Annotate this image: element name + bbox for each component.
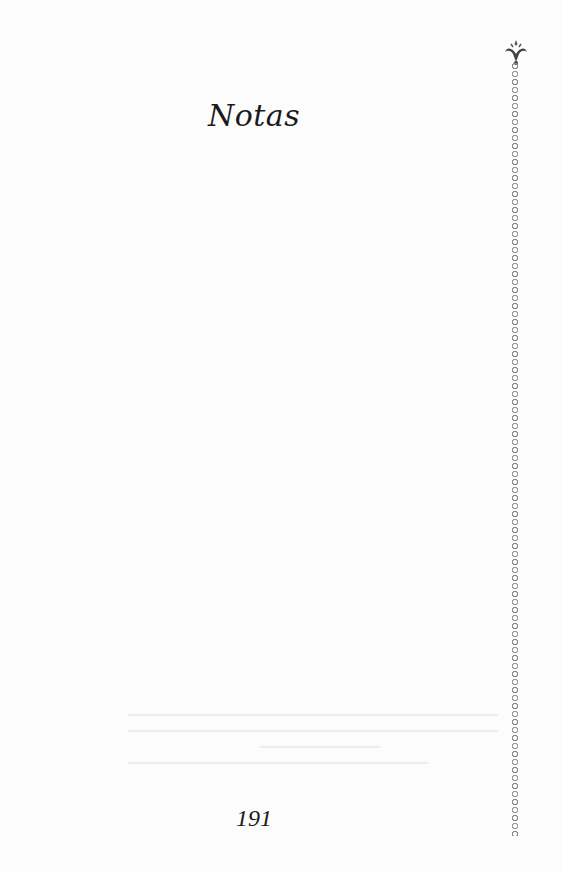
bleed-through-line [260,746,380,748]
page-number: 191 [0,805,508,832]
bleed-through-line [128,730,498,732]
book-page: Notas 191 [0,0,561,872]
page-title: Notas [0,98,508,133]
bleed-through-line [128,762,428,764]
bleed-through-line [128,714,498,716]
chain-border-decoration [509,62,521,836]
